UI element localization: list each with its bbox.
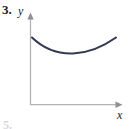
plot-area — [0, 0, 130, 129]
function-curve — [32, 38, 116, 54]
y-axis-arrowhead — [27, 13, 33, 20]
x-axis-arrowhead — [116, 102, 123, 108]
bottom-cutoff-text: 5. — [3, 119, 63, 129]
figure-container: 3. y x 5. — [0, 0, 130, 129]
